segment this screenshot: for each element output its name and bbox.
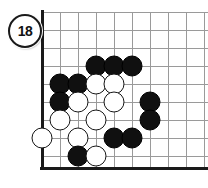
white-stone[interactable] (86, 110, 107, 131)
grid-line-horizontal-0 (42, 12, 208, 13)
grid-line-vertical-6 (150, 12, 151, 167)
grid-line-vertical-9 (204, 12, 205, 167)
grid-line-vertical-7 (168, 12, 169, 167)
grid-line-horizontal-1 (42, 30, 208, 31)
grid-line-horizontal-2 (42, 48, 208, 49)
black-stone[interactable] (122, 56, 143, 77)
move-number-badge: 18 (8, 14, 42, 48)
board-edge-bottom (40, 167, 208, 170)
go-diagram-root: 18 (0, 0, 208, 188)
black-stone[interactable] (140, 110, 161, 131)
white-stone[interactable] (50, 110, 71, 131)
grid-line-vertical-8 (186, 12, 187, 167)
white-stone[interactable] (104, 92, 125, 113)
black-stone[interactable] (122, 128, 143, 149)
white-stone[interactable] (32, 128, 53, 149)
move-number-label: 18 (18, 24, 33, 38)
white-stone[interactable] (68, 92, 89, 113)
white-stone[interactable] (86, 146, 107, 167)
